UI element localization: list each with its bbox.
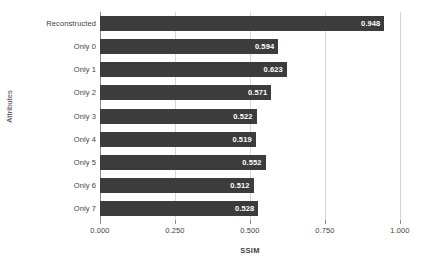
- bar-row: 0.528: [100, 201, 400, 216]
- x-tick-label-1.000: 1.000: [390, 226, 409, 235]
- bar-only-2[interactable]: 0.571: [100, 85, 271, 100]
- bar-value-label: 0.623: [264, 65, 287, 74]
- category-label-reconstructed: Reconstructed: [0, 16, 96, 31]
- category-label-only-7: Only 7: [0, 201, 96, 216]
- bar-value-label: 0.552: [242, 158, 265, 167]
- category-axis-labels: ReconstructedOnly 0Only 1Only 2Only 3Onl…: [0, 12, 96, 220]
- gridline-1.000: [400, 12, 401, 220]
- bar-row: 0.552: [100, 155, 400, 170]
- bar-value-label: 0.512: [230, 181, 253, 190]
- bar-value-label: 0.594: [255, 42, 278, 51]
- category-label-only-0: Only 0: [0, 39, 96, 54]
- category-label-only-6: Only 6: [0, 178, 96, 193]
- x-tick-label-0.500: 0.500: [240, 226, 259, 235]
- bar-value-label: 0.528: [235, 204, 258, 213]
- x-tick-0.500: [250, 220, 251, 224]
- bar-row: 0.948: [100, 16, 400, 31]
- bar-row: 0.522: [100, 109, 400, 124]
- bar-only-1[interactable]: 0.623: [100, 62, 287, 77]
- bar-only-4[interactable]: 0.519: [100, 132, 256, 147]
- bar-row: 0.623: [100, 62, 400, 77]
- category-label-only-4: Only 4: [0, 132, 96, 147]
- x-tick-0.250: [175, 220, 176, 224]
- bar-row: 0.519: [100, 132, 400, 147]
- plot-area: 0.9480.5940.6230.5710.5220.5190.5520.512…: [100, 12, 400, 220]
- bar-reconstructed[interactable]: 0.948: [100, 16, 384, 31]
- x-tick-0.750: [325, 220, 326, 224]
- bar-only-0[interactable]: 0.594: [100, 39, 278, 54]
- bar-value-label: 0.948: [361, 19, 384, 28]
- x-tick-label-0.750: 0.750: [315, 226, 334, 235]
- bar-value-label: 0.522: [233, 112, 256, 121]
- category-label-only-3: Only 3: [0, 109, 96, 124]
- bar-value-label: 0.519: [232, 135, 255, 144]
- bar-only-7[interactable]: 0.528: [100, 201, 258, 216]
- x-axis-title: SSIM: [100, 246, 400, 255]
- bar-row: 0.571: [100, 85, 400, 100]
- category-label-only-5: Only 5: [0, 155, 96, 170]
- x-axis: 0.0000.2500.5000.7501.000: [100, 220, 400, 244]
- bar-series: 0.9480.5940.6230.5710.5220.5190.5520.512…: [100, 12, 400, 220]
- bar-only-3[interactable]: 0.522: [100, 109, 257, 124]
- x-tick-1.000: [400, 220, 401, 224]
- category-label-only-1: Only 1: [0, 62, 96, 77]
- x-tick-0.000: [100, 220, 101, 224]
- category-label-only-2: Only 2: [0, 85, 96, 100]
- bar-only-5[interactable]: 0.552: [100, 155, 266, 170]
- bar-only-6[interactable]: 0.512: [100, 178, 254, 193]
- x-tick-label-0.250: 0.250: [165, 226, 184, 235]
- ssim-bar-chart: Attributes ReconstructedOnly 0Only 1Only…: [0, 0, 430, 276]
- bar-row: 0.594: [100, 39, 400, 54]
- bar-row: 0.512: [100, 178, 400, 193]
- x-tick-label-0.000: 0.000: [90, 226, 109, 235]
- bar-value-label: 0.571: [248, 88, 271, 97]
